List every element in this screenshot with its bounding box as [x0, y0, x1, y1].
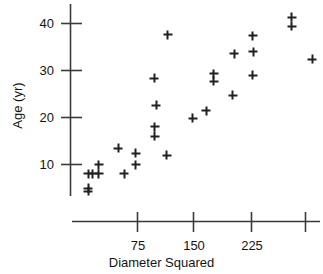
data-point — [287, 13, 296, 22]
x-tick-label-75: 75 — [131, 238, 145, 253]
data-point — [114, 144, 123, 153]
data-point — [94, 160, 103, 169]
y-axis-title: Age (yr) — [10, 70, 25, 142]
data-point — [308, 55, 317, 64]
data-point — [150, 132, 159, 141]
data-point — [228, 91, 237, 100]
data-point — [163, 30, 172, 39]
data-point — [209, 77, 218, 86]
data-point — [94, 169, 103, 178]
data-point — [152, 101, 161, 110]
y-tick-label-10: 10 — [16, 157, 54, 172]
data-point — [131, 160, 140, 169]
data-point — [120, 169, 129, 178]
data-point — [150, 122, 159, 131]
data-point — [202, 106, 211, 115]
x-tick-label-225: 225 — [241, 238, 263, 253]
data-point — [188, 114, 197, 123]
data-point — [162, 151, 171, 160]
data-point — [248, 31, 257, 40]
data-point — [131, 149, 140, 158]
data-point — [287, 22, 296, 31]
data-point — [84, 187, 93, 196]
x-axis-title: Diameter Squared — [0, 255, 323, 270]
chart-axes — [0, 0, 323, 274]
x-tick-label-150: 150 — [183, 238, 205, 253]
data-point — [249, 47, 258, 56]
data-point — [230, 49, 239, 58]
y-tick-label-40: 40 — [16, 16, 54, 31]
data-point — [150, 74, 159, 83]
data-point — [248, 71, 257, 80]
scatter-chart: 40 30 20 10 75 150 225 Age (yr) Diameter… — [0, 0, 323, 274]
